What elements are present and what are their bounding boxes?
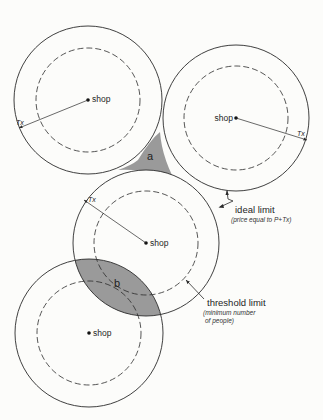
threshold-limit-subtitle-1: (minimum number: [203, 309, 256, 317]
shop-dot-icon: [87, 331, 91, 335]
threshold-limit-title: threshold limit: [207, 297, 266, 308]
shop-label: shop: [215, 113, 234, 123]
region-a-label: a: [147, 150, 154, 162]
tx-label: Tx: [16, 119, 24, 126]
region-b-label: b: [114, 277, 120, 289]
threshold-limit-subtitle-2: of people): [205, 317, 234, 325]
tx-label: Tx: [88, 196, 96, 203]
shop-label: shop: [93, 328, 112, 338]
ideal-limit-annotation: ideal limit (price equal to P+Tx): [219, 190, 292, 224]
shop-label: shop: [92, 94, 111, 104]
tx-label: Tx: [297, 130, 305, 137]
market-areas-diagram: shop shop shop shop Tx Tx Tx a b ideal l…: [0, 0, 323, 420]
shop-bottom: shop: [87, 328, 112, 338]
ideal-limit-title: ideal limit: [235, 204, 275, 215]
ideal-limit-subtitle: (price equal to P+Tx): [231, 216, 292, 224]
shop-label: shop: [150, 238, 169, 248]
